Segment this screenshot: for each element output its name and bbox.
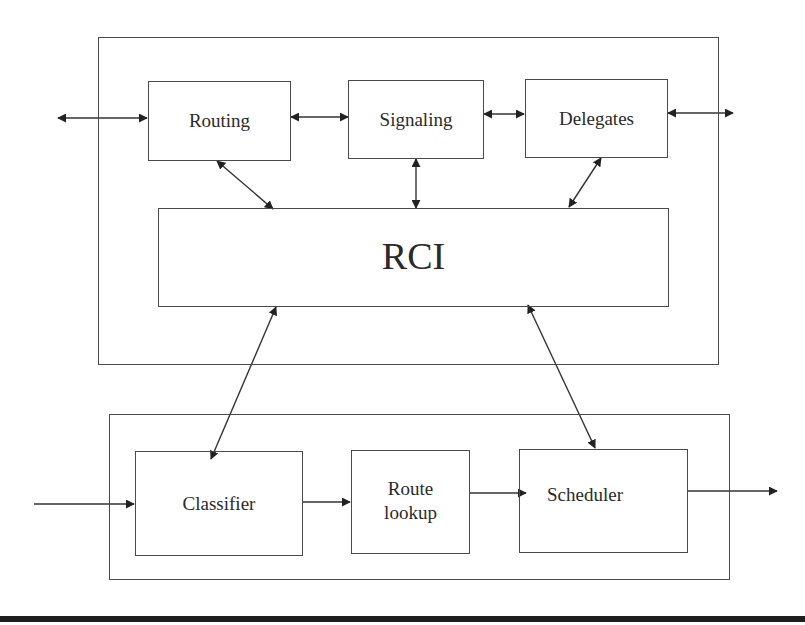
- delegates-label: Delegates: [559, 107, 634, 131]
- classifier-module: Classifier: [135, 451, 303, 556]
- routing-module: Routing: [148, 81, 291, 161]
- rci-label: RCI: [382, 234, 445, 278]
- scheduler-label: Scheduler: [547, 483, 623, 507]
- routing-label: Routing: [189, 109, 250, 133]
- signaling-label: Signaling: [380, 108, 453, 132]
- route-lookup-label-line2: lookup: [352, 501, 469, 525]
- scheduler-module: Scheduler: [519, 449, 688, 553]
- rci-interface: RCI: [158, 208, 669, 307]
- route-lookup-module: Route lookup: [351, 450, 470, 554]
- bottom-rule: [0, 616, 805, 622]
- route-lookup-label-line1: Route: [352, 477, 469, 501]
- classifier-label: Classifier: [136, 492, 302, 516]
- signaling-module: Signaling: [348, 80, 484, 159]
- delegates-module: Delegates: [525, 79, 668, 158]
